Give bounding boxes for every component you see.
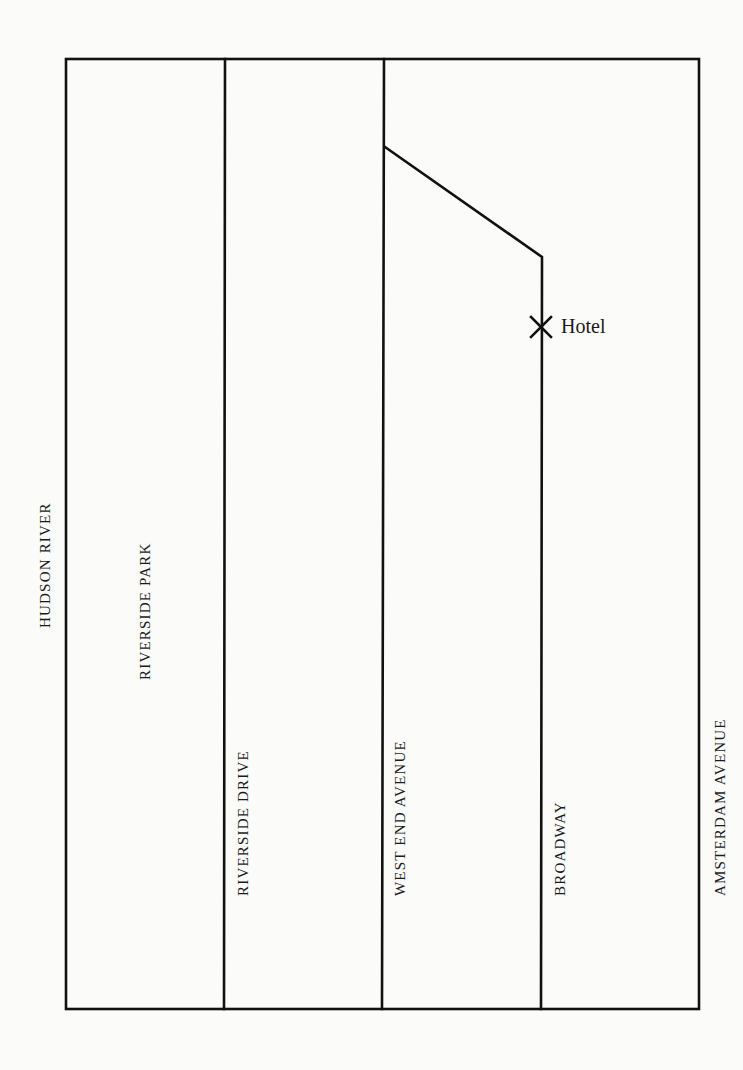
label-amsterdam-avenue: AMSTERDAM AVENUE (712, 718, 728, 896)
street-map-diagram (0, 0, 743, 1070)
label-riverside-park: RIVERSIDE PARK (137, 542, 153, 680)
riverside-drive-line (224, 59, 225, 1009)
west-end-avenue-line (382, 59, 384, 1009)
label-west-end-avenue: WEST END AVENUE (392, 740, 408, 896)
hotel-label: Hotel (561, 315, 605, 337)
label-broadway: BROADWAY (552, 801, 568, 896)
broadway-line (385, 147, 542, 1009)
label-riverside-drive: RIVERSIDE DRIVE (235, 750, 251, 896)
label-hudson-river: HUDSON RIVER (37, 502, 53, 628)
